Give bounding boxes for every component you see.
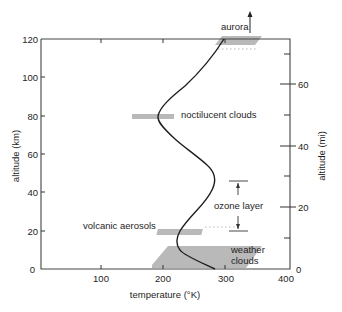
volcanic-aerosols-label: volcanic aerosols — [83, 220, 156, 231]
noctilucent-clouds-label: noctilucent clouds — [181, 109, 257, 120]
noctilucent-clouds-band — [132, 114, 174, 119]
svg-text:200: 200 — [155, 273, 171, 284]
y-axis-right-ticks — [280, 54, 296, 238]
svg-text:40: 40 — [298, 141, 309, 152]
svg-text:40: 40 — [27, 187, 38, 198]
atmosphere-temperature-diagram: 0 100 200 300 400 20 40 60 80 100 120 0 … — [0, 0, 342, 312]
aurora-band — [215, 36, 262, 45]
svg-text:0: 0 — [296, 264, 301, 275]
svg-text:80: 80 — [27, 111, 38, 122]
y-axis-right-title: altitude (mi) — [316, 131, 327, 181]
svg-text:300: 300 — [218, 273, 234, 284]
svg-text:20: 20 — [298, 202, 309, 213]
svg-text:400: 400 — [278, 273, 294, 284]
svg-text:20: 20 — [27, 226, 38, 237]
svg-text:0: 0 — [30, 264, 35, 275]
y-left-tick-labels: 20 40 60 80 100 120 — [22, 34, 38, 237]
y-axis-left-ticks — [41, 77, 45, 231]
y-axis-left-title: altitude (km) — [10, 130, 21, 182]
aurora-label: aurora — [221, 21, 249, 32]
weather-clouds-label-line1: weather — [230, 244, 265, 255]
svg-text:60: 60 — [298, 79, 309, 90]
svg-text:120: 120 — [22, 34, 38, 45]
y-right-tick-labels: 0 20 40 60 — [296, 79, 309, 275]
svg-text:100: 100 — [93, 273, 109, 284]
svg-text:60: 60 — [27, 149, 38, 160]
svg-text:100: 100 — [22, 72, 38, 83]
weather-clouds-label-line2: clouds — [231, 255, 259, 266]
ozone-layer-label: ozone layer — [214, 200, 263, 211]
x-axis-title: temperature (°K) — [130, 289, 200, 300]
